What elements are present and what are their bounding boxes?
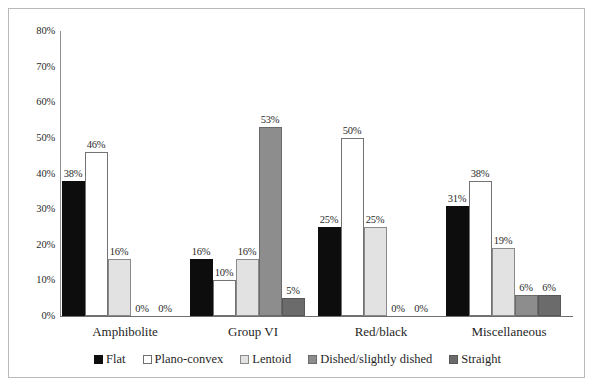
legend-label: Lentoid — [252, 353, 291, 366]
legend-item-straight[interactable]: Straight — [449, 353, 501, 366]
legend-label: Dished/slightly dished — [320, 353, 432, 366]
bar-group: 16%10%16%53%5% — [190, 31, 305, 316]
bar-cell: 5% — [282, 31, 305, 316]
y-axis-tick-labels: 80%70%60%50%40%30%20%10%0% — [15, 9, 55, 379]
bar-cell: 10% — [213, 31, 236, 316]
bar-plano-convex[interactable] — [85, 152, 108, 316]
legend-swatch-icon — [308, 355, 317, 364]
x-axis-category-label: Miscellaneous — [445, 325, 573, 339]
y-axis-tick-80: 80% — [17, 26, 55, 37]
bar-straight[interactable] — [538, 295, 561, 316]
bar-cell: 0% — [410, 31, 433, 316]
bar-value-label: 0% — [414, 303, 428, 314]
chart-canvas: 80%70%60%50%40%30%20%10%0% 38%46%16%0%0%… — [9, 9, 586, 379]
bar-value-label: 5% — [286, 285, 300, 296]
bar-value-label: 38% — [64, 168, 83, 179]
bar-cell: 38% — [469, 31, 492, 316]
bar-cell: 6% — [515, 31, 538, 316]
plot-area: 38%46%16%0%0%16%10%16%53%5%25%50%25%0%0%… — [61, 31, 573, 316]
bar-value-label: 19% — [494, 235, 513, 246]
bar-value-label: 6% — [542, 282, 556, 293]
bar-lentoid[interactable] — [108, 259, 131, 316]
bar-value-label: 0% — [158, 303, 172, 314]
bar-cell: 25% — [318, 31, 341, 316]
bar-value-label: 16% — [110, 246, 129, 257]
bar-plano-convex[interactable] — [469, 181, 492, 316]
bar-value-label: 0% — [391, 303, 405, 314]
chart-legend: FlatPlano-convexLentoidDished/slightly d… — [9, 353, 586, 366]
legend-item-dished-slightly-dished[interactable]: Dished/slightly dished — [308, 353, 432, 366]
bar-value-label: 0% — [135, 303, 149, 314]
bar-value-label: 6% — [519, 282, 533, 293]
bar-lentoid[interactable] — [364, 227, 387, 316]
x-axis-category-label: Group VI — [189, 325, 317, 339]
y-axis-tick-10: 10% — [17, 275, 55, 286]
bar-cell: 16% — [190, 31, 213, 316]
bar-lentoid[interactable] — [492, 248, 515, 316]
y-axis-tick-20: 20% — [17, 240, 55, 251]
bar-lentoid[interactable] — [236, 259, 259, 316]
y-axis-tick-30: 30% — [17, 204, 55, 215]
bar-cell: 6% — [538, 31, 561, 316]
y-axis-tick-40: 40% — [17, 169, 55, 180]
legend-label: Plano-convex — [155, 353, 224, 366]
bar-cell: 31% — [446, 31, 469, 316]
bar-value-label: 25% — [366, 214, 385, 225]
legend-swatch-icon — [240, 355, 249, 364]
bar-value-label: 50% — [343, 125, 362, 136]
legend-swatch-icon — [449, 355, 458, 364]
bar-plano-convex[interactable] — [213, 280, 236, 316]
bar-value-label: 25% — [320, 214, 339, 225]
legend-label: Flat — [106, 353, 125, 366]
chart-frame: 80%70%60%50%40%30%20%10%0% 38%46%16%0%0%… — [8, 8, 585, 378]
bar-cell: 0% — [131, 31, 154, 316]
bar-flat[interactable] — [62, 181, 85, 316]
bar-group: 38%46%16%0%0% — [62, 31, 177, 316]
y-axis-tick-50: 50% — [17, 133, 55, 144]
bar-flat[interactable] — [190, 259, 213, 316]
x-axis-category-label: Red/black — [317, 325, 445, 339]
legend-swatch-icon — [94, 355, 103, 364]
bar-cell: 16% — [108, 31, 131, 316]
bar-cell: 50% — [341, 31, 364, 316]
bar-group: 31%38%19%6%6% — [446, 31, 561, 316]
bar-value-label: 10% — [215, 267, 234, 278]
x-axis-line — [60, 316, 573, 317]
legend-item-lentoid[interactable]: Lentoid — [240, 353, 291, 366]
bar-cell: 25% — [364, 31, 387, 316]
bar-straight[interactable] — [282, 298, 305, 316]
bar-dished-slightly-dished[interactable] — [259, 127, 282, 316]
bar-cell: 53% — [259, 31, 282, 316]
legend-item-flat[interactable]: Flat — [94, 353, 125, 366]
bar-value-label: 38% — [471, 168, 490, 179]
bar-dished-slightly-dished[interactable] — [515, 295, 538, 316]
y-axis-tick-60: 60% — [17, 97, 55, 108]
bar-cell: 38% — [62, 31, 85, 316]
y-axis-tick-70: 70% — [17, 62, 55, 73]
y-axis-tick-0: 0% — [17, 311, 55, 322]
bar-cell: 0% — [154, 31, 177, 316]
bar-value-label: 16% — [238, 246, 257, 257]
bar-flat[interactable] — [318, 227, 341, 316]
bar-value-label: 16% — [192, 246, 211, 257]
bar-plano-convex[interactable] — [341, 138, 364, 316]
bar-cell: 0% — [387, 31, 410, 316]
bar-group: 25%50%25%0%0% — [318, 31, 433, 316]
bar-value-label: 46% — [87, 139, 106, 150]
bar-value-label: 53% — [261, 114, 280, 125]
legend-item-plano-convex[interactable]: Plano-convex — [143, 353, 224, 366]
bar-cell: 46% — [85, 31, 108, 316]
legend-label: Straight — [461, 353, 501, 366]
x-axis-category-label: Amphibolite — [61, 325, 189, 339]
bar-value-label: 31% — [448, 193, 467, 204]
bar-flat[interactable] — [446, 206, 469, 316]
bar-cell: 19% — [492, 31, 515, 316]
legend-swatch-icon — [143, 355, 152, 364]
bar-cell: 16% — [236, 31, 259, 316]
